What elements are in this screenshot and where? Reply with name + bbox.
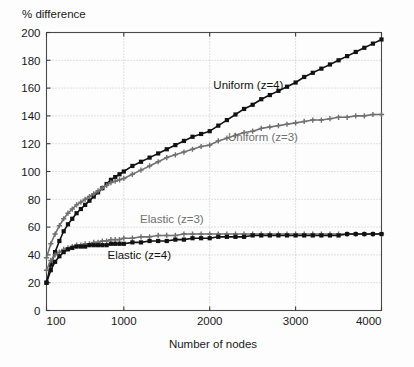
data-point-marker-square [92, 243, 96, 247]
data-point-marker-square [208, 236, 212, 240]
data-point-marker-square [109, 242, 113, 246]
data-point-marker-square [53, 260, 57, 264]
y-tick-label: 180 [21, 55, 40, 67]
data-point-marker-square [354, 232, 358, 236]
data-point-marker-square [336, 58, 340, 62]
data-point-marker-square [233, 112, 237, 116]
data-point-marker-square [156, 239, 160, 243]
y-tick-label: 40 [28, 249, 41, 261]
chart-background [0, 0, 414, 367]
data-point-marker-square [259, 97, 263, 101]
data-point-marker-square [251, 233, 255, 237]
data-point-marker-square [190, 236, 194, 240]
data-point-marker-square [328, 62, 332, 66]
data-point-marker-square [182, 139, 186, 143]
data-point-marker-square [216, 235, 220, 239]
data-point-marker-square [294, 80, 298, 84]
data-point-marker-square [130, 240, 134, 244]
data-point-marker-square [79, 207, 83, 211]
data-point-marker-square [319, 67, 323, 71]
y-tick-label: 60 [28, 221, 41, 233]
data-point-marker-square [362, 46, 366, 50]
data-point-marker-square [87, 199, 91, 203]
data-point-marker-square [57, 254, 61, 258]
data-point-marker-square [117, 172, 121, 176]
x-tick-label: 100 [47, 315, 66, 327]
data-point-marker-square [117, 242, 121, 246]
data-point-marker-square [259, 233, 263, 237]
x-axis-title: Number of nodes [169, 338, 257, 350]
data-point-marker-square [285, 85, 289, 89]
data-point-marker-square [83, 203, 87, 207]
data-point-marker-square [173, 143, 177, 147]
data-point-marker-square [336, 233, 340, 237]
data-point-marker-square [66, 222, 70, 226]
data-point-marker-square [173, 238, 177, 242]
data-point-marker-square [100, 243, 104, 247]
data-point-marker-square [74, 244, 78, 248]
data-point-marker-square [216, 124, 220, 128]
x-tick-label: 3000 [283, 315, 309, 327]
data-point-marker-square [302, 233, 306, 237]
data-point-marker-square [130, 164, 134, 168]
data-point-marker-square [113, 175, 117, 179]
data-point-marker-square [251, 103, 255, 107]
data-point-marker-square [242, 235, 246, 239]
chart-page: 020406080100120140160180200 100100020003… [0, 0, 414, 367]
data-point-marker-square [44, 281, 48, 285]
data-point-marker-square [139, 240, 143, 244]
series-label: Uniform (z=3) [228, 131, 298, 143]
data-point-marker-square [62, 250, 66, 254]
data-point-marker-square [285, 233, 289, 237]
data-point-marker-square [83, 244, 87, 248]
x-tick-label: 4000 [356, 315, 382, 327]
data-point-marker-square [311, 233, 315, 237]
data-point-marker-square [268, 233, 272, 237]
data-point-marker-square [379, 232, 383, 236]
y-tick-label: 160 [21, 82, 40, 94]
percent-difference-line-chart: 020406080100120140160180200 100100020003… [0, 0, 414, 367]
data-point-marker-square [371, 42, 375, 46]
y-tick-label: 120 [21, 138, 40, 150]
data-point-marker-square [96, 243, 100, 247]
series-label: Uniform (z=4) [213, 79, 283, 91]
y-axis-title: % difference [22, 8, 86, 20]
data-point-marker-square [345, 54, 349, 58]
data-point-marker-square [328, 233, 332, 237]
data-point-marker-square [165, 239, 169, 243]
data-point-marker-square [302, 75, 306, 79]
data-point-marker-square [276, 233, 280, 237]
data-point-marker-square [345, 232, 349, 236]
data-point-marker-square [379, 37, 383, 41]
data-point-marker-square [311, 71, 315, 75]
data-point-marker-square [225, 235, 229, 239]
data-point-marker-square [70, 246, 74, 250]
data-point-marker-square [182, 238, 186, 242]
data-point-marker-square [190, 135, 194, 139]
y-tick-label: 140 [21, 110, 40, 122]
data-point-marker-square [294, 233, 298, 237]
data-point-marker-square [199, 236, 203, 240]
data-point-marker-square [242, 107, 246, 111]
data-point-marker-square [225, 118, 229, 122]
data-point-marker-square [268, 93, 272, 97]
x-tick-label: 2000 [197, 315, 223, 327]
data-point-marker-square [165, 147, 169, 151]
data-point-marker-square [319, 233, 323, 237]
data-point-marker-square [354, 50, 358, 54]
y-tick-label: 200 [21, 27, 40, 39]
data-point-marker-square [122, 169, 126, 173]
data-point-marker-square [66, 247, 70, 251]
y-tick-label: 20 [28, 277, 41, 289]
data-point-marker-square [371, 232, 375, 236]
data-point-marker-square [70, 217, 74, 221]
y-tick-label: 0 [34, 305, 40, 317]
data-point-marker-square [208, 129, 212, 133]
data-point-marker-square [49, 268, 53, 272]
data-point-marker-square [139, 160, 143, 164]
y-tick-label: 80 [28, 194, 41, 206]
data-point-marker-square [122, 242, 126, 246]
data-point-marker-square [113, 242, 117, 246]
data-point-marker-square [62, 229, 66, 233]
data-point-marker-square [57, 239, 61, 243]
